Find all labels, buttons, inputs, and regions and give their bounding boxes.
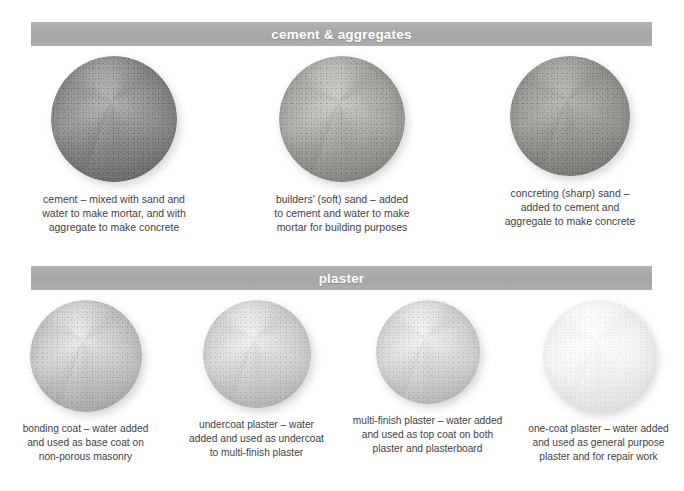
bonding-coat-pile-image	[30, 300, 142, 412]
reference-chart-page: cement & aggregates cement – mixed with …	[0, 0, 684, 491]
cement-pile-image	[51, 56, 177, 182]
sample-cell-builders-soft-sand: builders' (soft) sand – added to cement …	[228, 56, 456, 246]
undercoat-plaster-pile-image	[203, 300, 311, 408]
sample-row-cement-aggregates: cement – mixed with sand and water to ma…	[0, 56, 684, 246]
pile-wrap-cement	[51, 56, 177, 182]
builders-soft-sand-pile-image	[279, 56, 405, 182]
pile-wrap-concreting-sharp-sand	[510, 56, 630, 176]
section-header-plaster: plaster	[31, 266, 652, 290]
caption-undercoat-plaster: undercoat plaster – water added and used…	[189, 418, 324, 461]
one-coat-plaster-pile-image	[543, 300, 655, 412]
sample-cell-multi-finish-plaster: multi-finish plaster – water added and u…	[342, 300, 513, 485]
sample-cell-one-coat-plaster: one-coat plaster – water added and used …	[513, 300, 684, 485]
pile-wrap-multi-finish-plaster	[376, 300, 480, 404]
multi-finish-plaster-pile-image	[376, 300, 480, 404]
caption-builders-soft-sand: builders' (soft) sand – added to cement …	[274, 192, 409, 235]
section-header-cement-aggregates: cement & aggregates	[31, 22, 652, 46]
caption-bonding-coat: bonding coat – water added and used as b…	[23, 422, 149, 465]
caption-one-coat-plaster: one-coat plaster – water added and used …	[528, 422, 668, 465]
concreting-sharp-sand-pile-image	[510, 56, 630, 176]
caption-cement: cement – mixed with sand and water to ma…	[42, 192, 186, 235]
caption-concreting-sharp-sand: concreting (sharp) sand – added to cemen…	[505, 186, 636, 229]
sample-cell-bonding-coat: bonding coat – water added and used as b…	[0, 300, 171, 485]
sample-cell-concreting-sharp-sand: concreting (sharp) sand – added to cemen…	[456, 56, 684, 246]
sample-cell-cement: cement – mixed with sand and water to ma…	[0, 56, 228, 246]
pile-wrap-builders-soft-sand	[279, 56, 405, 182]
sample-cell-undercoat-plaster: undercoat plaster – water added and used…	[171, 300, 342, 485]
sample-row-plaster: bonding coat – water added and used as b…	[0, 300, 684, 485]
section-title-cement-aggregates: cement & aggregates	[271, 27, 411, 42]
pile-wrap-undercoat-plaster	[203, 300, 311, 408]
section-title-plaster: plaster	[319, 271, 365, 286]
pile-wrap-one-coat-plaster	[543, 300, 655, 412]
caption-multi-finish-plaster: multi-finish plaster – water added and u…	[353, 414, 503, 457]
pile-wrap-bonding-coat	[30, 300, 142, 412]
